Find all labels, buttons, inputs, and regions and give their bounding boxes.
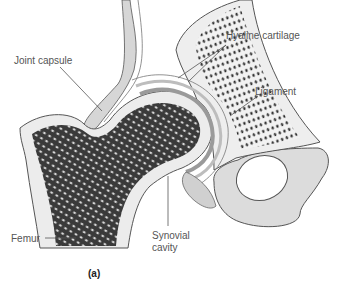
joint-capsule-leader — [60, 67, 102, 111]
label-ligament: Ligament — [255, 86, 296, 97]
label-synovial-cavity-line2: cavity — [152, 242, 178, 253]
label-femur: Femur — [11, 233, 40, 244]
label-synovial-cavity-line1: Synovial — [152, 230, 190, 241]
label-joint-capsule: Joint capsule — [14, 55, 72, 66]
figure-caption: (a) — [88, 268, 100, 279]
label-hyaline-cartilage: Hyaline cartilage — [226, 30, 300, 41]
hip-joint-diagram: Joint capsule Hyaline cartilage Ligament… — [0, 0, 340, 286]
lower-capsule — [182, 172, 216, 208]
